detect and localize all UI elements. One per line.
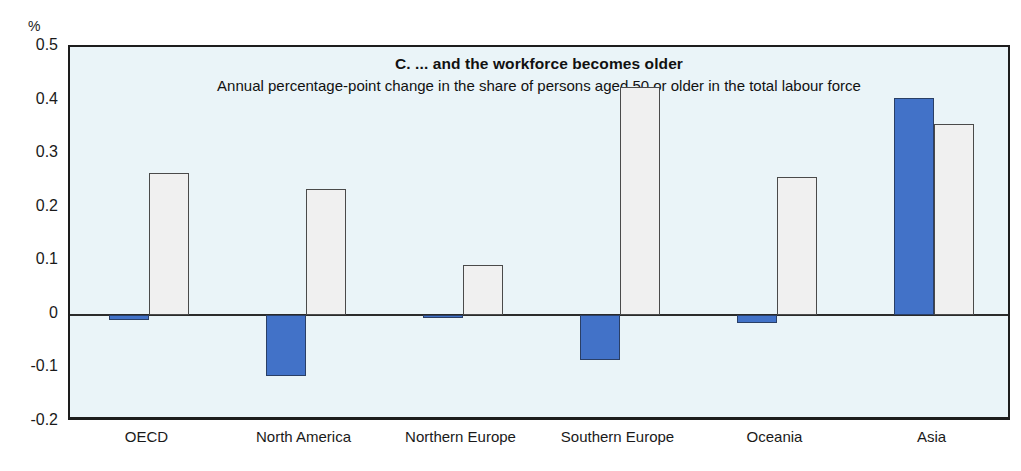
x-axis-labels: OECDNorth AmericaNorthern EuropeSouthern… <box>68 428 1010 458</box>
y-axis-tick: 0.2 <box>36 197 58 215</box>
x-axis-label-northern-europe: Northern Europe <box>405 428 516 445</box>
bar-series-blue-southern-europe <box>580 315 620 361</box>
bar-series-blue-northern-europe <box>423 315 463 318</box>
x-axis-label-asia: Asia <box>917 428 946 445</box>
bar-series-blue-oceania <box>737 315 777 323</box>
bar-series-white-northern-europe <box>463 265 503 315</box>
bar-series-white-southern-europe <box>620 87 660 315</box>
y-axis-tick: 0.1 <box>36 250 58 268</box>
chart-subtitle: Annual percentage-point change in the sh… <box>70 77 1008 94</box>
y-axis: 0.50.40.30.20.10-0.1-0.2 <box>0 0 66 471</box>
plot-area: C. ... and the workforce becomes older A… <box>68 45 1010 420</box>
bar-series-blue-oecd <box>109 315 149 320</box>
x-axis-label-north-america: North America <box>256 428 351 445</box>
plot-inner: C. ... and the workforce becomes older A… <box>70 47 1008 417</box>
y-axis-tick: 0 <box>49 304 58 322</box>
bar-group <box>109 47 189 417</box>
y-axis-tick: -0.2 <box>30 411 58 429</box>
bar-group <box>266 47 346 417</box>
y-axis-tick: 0.3 <box>36 143 58 161</box>
bar-series-white-oceania <box>777 177 817 315</box>
bar-group <box>894 47 974 417</box>
bar-group <box>737 47 817 417</box>
y-axis-tick: 0.4 <box>36 90 58 108</box>
bar-series-white-north-america <box>306 189 346 315</box>
chart-title: C. ... and the workforce becomes older <box>70 55 1008 73</box>
bar-group <box>580 47 660 417</box>
chart-figure: % 0.50.40.30.20.10-0.1-0.2 C. ... and th… <box>0 0 1021 471</box>
y-axis-tick: 0.5 <box>36 36 58 54</box>
bar-series-blue-north-america <box>266 315 306 377</box>
x-axis-label-oecd: OECD <box>125 428 168 445</box>
x-axis-label-oceania: Oceania <box>747 428 803 445</box>
bar-series-blue-asia <box>894 98 934 315</box>
zero-baseline <box>70 314 1008 316</box>
bar-group <box>423 47 503 417</box>
bar-series-white-asia <box>934 124 974 315</box>
x-axis-label-southern-europe: Southern Europe <box>561 428 674 445</box>
y-axis-tick: -0.1 <box>30 357 58 375</box>
bar-series-white-oecd <box>149 173 189 315</box>
